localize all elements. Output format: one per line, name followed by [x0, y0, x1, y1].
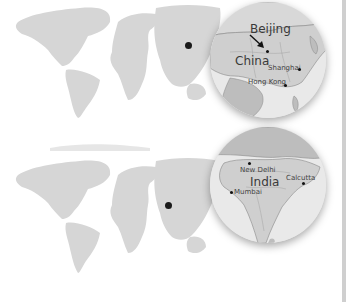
- mumbai-dot: [230, 191, 233, 194]
- location-marker-dot: [185, 42, 192, 49]
- beijing-dot: [266, 50, 269, 53]
- city-label-new-delhi: New Delhi: [240, 166, 276, 174]
- shanghai-dot: [298, 68, 301, 71]
- city-label-hong-kong: Hong Kong: [248, 78, 286, 86]
- india-locator-panel: New Delhi India Calcutta Mumbai: [0, 151, 342, 302]
- country-label: China: [235, 54, 269, 68]
- location-marker-dot: [165, 202, 172, 209]
- new-delhi-dot: [248, 162, 251, 165]
- china-magnifier-lens: Beijing China Shanghai Hong Kong: [210, 2, 326, 118]
- capital-label: Beijing: [250, 22, 291, 36]
- city-label-mumbai: Mumbai: [234, 188, 262, 196]
- city-label-calcutta: Calcutta: [286, 174, 315, 182]
- right-edge-strip: [342, 0, 346, 302]
- country-label: India: [250, 175, 279, 189]
- calcutta-dot: [302, 182, 305, 185]
- city-label-shanghai: Shanghai: [268, 64, 301, 72]
- india-magnifier-lens: New Delhi India Calcutta Mumbai: [210, 127, 326, 243]
- hong-kong-dot: [284, 84, 287, 87]
